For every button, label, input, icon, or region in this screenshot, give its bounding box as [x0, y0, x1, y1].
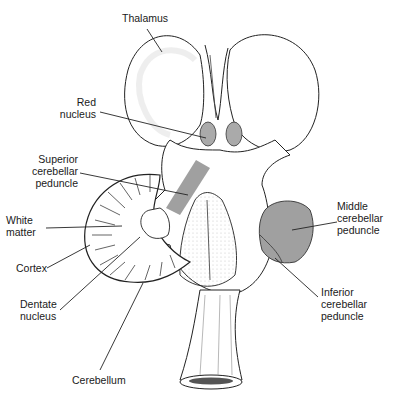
label-inferior-peduncle: Inferior cerebellar peduncle [321, 286, 367, 322]
leader-cortex [47, 245, 90, 268]
label-cerebellum: Cerebellum [72, 374, 126, 386]
label-white-matter: White matter [6, 214, 36, 238]
label-middle-peduncle: Middle cerebellar peduncle [337, 200, 383, 236]
brainstem-diagram [0, 0, 396, 396]
leader-inferior-peduncle [275, 258, 318, 297]
label-dentate: Dentate nucleus [20, 298, 57, 322]
medulla [180, 290, 242, 380]
label-cortex: Cortex [16, 262, 47, 274]
leader-cerebellum [100, 283, 143, 370]
red-nucleus-right [226, 122, 242, 146]
middle-peduncle [259, 201, 313, 263]
label-red-nucleus: Red nucleus [58, 96, 96, 120]
label-superior-peduncle: Superior cerebellar peduncle [28, 153, 78, 189]
red-nucleus-left [200, 122, 216, 146]
label-thalamus: Thalamus [122, 12, 168, 24]
